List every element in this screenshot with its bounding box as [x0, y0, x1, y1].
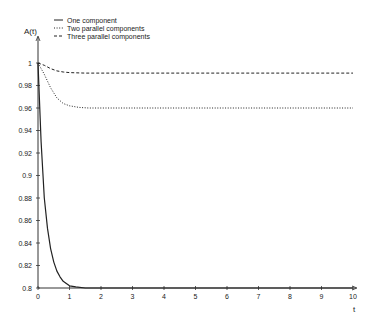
y-tick-label: 0.88: [18, 195, 32, 202]
x-tick-label: 10: [349, 293, 357, 300]
y-tick-label: 0.84: [18, 240, 32, 247]
legend-label: Two parallel components: [67, 25, 145, 33]
x-tick-label: 9: [320, 293, 324, 300]
y-tick-label: 1: [28, 60, 32, 67]
x-tick-label: 4: [162, 293, 166, 300]
y-tick-label: 0.86: [18, 217, 32, 224]
x-tick-label: 6: [225, 293, 229, 300]
legend-label: Three parallel components: [67, 33, 150, 41]
y-tick-label: 0.8: [22, 285, 32, 292]
legend: One componentTwo parallel componentsThre…: [54, 17, 150, 41]
x-tick-label: 5: [194, 293, 198, 300]
y-axis-label: A(t): [24, 27, 37, 36]
y-tick-label: 0.9: [22, 172, 32, 179]
x-tick-label: 8: [288, 293, 292, 300]
y-tick-label: 0.82: [18, 262, 32, 269]
y-tick-label: 0.92: [18, 150, 32, 157]
reliability-chart: 0123456789100.80.820.840.860.880.90.920.…: [0, 0, 374, 322]
x-tick-label: 1: [68, 293, 72, 300]
y-tick-label: 0.96: [18, 105, 32, 112]
x-tick-label: 2: [99, 293, 103, 300]
axes: 0123456789100.80.820.840.860.880.90.920.…: [18, 27, 357, 314]
series-line: [38, 63, 353, 108]
legend-label: One component: [67, 17, 117, 25]
series-line: [38, 63, 353, 288]
y-tick-label: 0.94: [18, 127, 32, 134]
series-line: [38, 63, 353, 73]
y-tick-label: 0.98: [18, 82, 32, 89]
x-axis-label: t: [353, 305, 356, 314]
x-tick-label: 0: [36, 293, 40, 300]
data-lines: [38, 63, 353, 288]
x-tick-label: 3: [131, 293, 135, 300]
x-tick-label: 7: [257, 293, 261, 300]
